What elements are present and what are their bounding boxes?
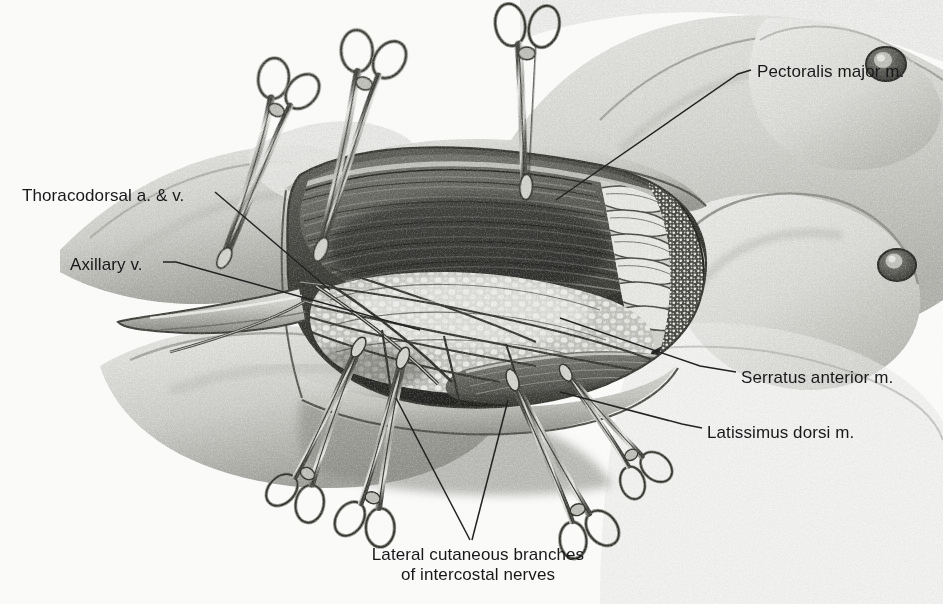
label-nerves-line2: of intercostal nerves: [333, 565, 623, 585]
label-serratus-anterior: Serratus anterior m.: [741, 368, 893, 388]
label-intercostal-nerves: Lateral cutaneous branches of intercosta…: [333, 545, 623, 585]
label-pectoralis-major: Pectoralis major m.: [757, 62, 904, 82]
illustration-artwork: [0, 0, 943, 604]
lower-nipple-areola: [878, 249, 916, 281]
label-axillary-vein: Axillary v.: [70, 255, 143, 275]
label-nerves-line1: Lateral cutaneous branches: [372, 545, 584, 564]
medical-illustration-figure: Pectoralis major m. Thoracodorsal a. & v…: [0, 0, 943, 604]
label-thoracodorsal: Thoracodorsal a. & v.: [22, 186, 184, 206]
label-latissimus-dorsi: Latissimus dorsi m.: [707, 423, 854, 443]
